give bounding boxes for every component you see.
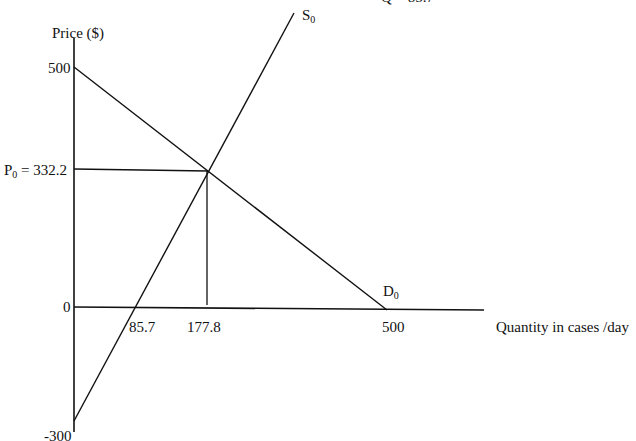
demand-label-main: D xyxy=(383,283,394,299)
supply-curve-s0 xyxy=(74,13,294,421)
x-tick-500: 500 xyxy=(382,320,405,335)
x-tick-85-7: 85.7 xyxy=(129,320,155,335)
equilibrium-price-line xyxy=(74,169,208,171)
supply-demand-chart xyxy=(0,0,636,441)
demand-curve-d0 xyxy=(74,67,387,310)
y-tick-500: 500 xyxy=(48,61,71,76)
supply-label-sub: 0 xyxy=(310,14,315,25)
x-tick-177-8: 177.8 xyxy=(187,320,221,335)
y-tick-neg300: -300 xyxy=(44,429,72,441)
top-clipped-annotation: Q = 85.7 xyxy=(381,0,434,6)
supply-label: S0 xyxy=(302,8,315,25)
demand-label-sub: 0 xyxy=(394,290,399,301)
y-axis-title: Price ($) xyxy=(52,26,104,41)
demand-label: D0 xyxy=(383,284,399,301)
x-axis-title: Quantity in cases /day xyxy=(496,320,629,335)
y-tick-0: 0 xyxy=(63,300,71,315)
p0-label: P0 = 332.2 xyxy=(4,163,67,180)
p0-value: = 332.2 xyxy=(17,162,67,178)
